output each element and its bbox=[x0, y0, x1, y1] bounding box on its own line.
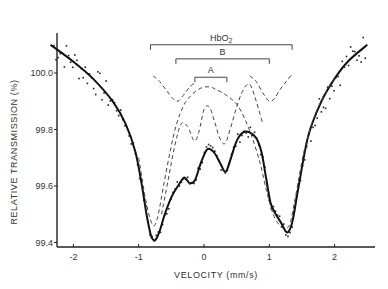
x-tick-label: 0 bbox=[201, 252, 206, 262]
data-point bbox=[74, 54, 76, 56]
data-point bbox=[82, 77, 84, 79]
data-point bbox=[120, 109, 122, 111]
data-point bbox=[87, 83, 89, 85]
x-axis-label: VELOCITY (mm/s) bbox=[174, 270, 258, 280]
x-tick-label: 1 bbox=[267, 252, 272, 262]
series-doublet-b bbox=[250, 73, 293, 101]
data-point bbox=[84, 66, 86, 68]
data-point bbox=[346, 56, 348, 58]
mossbauer-spectrum-chart: 99.499.699.8100.0-2-1012 HbO2BA VELOCITY… bbox=[0, 0, 388, 289]
data-point bbox=[287, 236, 289, 238]
data-point bbox=[362, 37, 364, 39]
bracket-label: B bbox=[220, 47, 226, 57]
data-point bbox=[314, 125, 316, 127]
data-point bbox=[116, 110, 118, 112]
data-point bbox=[352, 50, 354, 52]
y-axis-label: RELATIVE TRANSMISSION (%) bbox=[9, 79, 19, 224]
data-point bbox=[348, 65, 350, 67]
data-point bbox=[176, 181, 178, 183]
data-point bbox=[254, 131, 256, 133]
axes: 99.499.699.8100.0-2-1012 bbox=[30, 33, 375, 262]
data-point bbox=[57, 57, 59, 59]
data-point bbox=[105, 80, 107, 82]
data-point bbox=[68, 55, 70, 57]
data-point bbox=[279, 215, 281, 217]
data-point bbox=[358, 55, 360, 57]
y-tick-label: 99.8 bbox=[35, 125, 53, 135]
bracket-label: A bbox=[208, 65, 214, 75]
data-point bbox=[78, 78, 80, 80]
data-point bbox=[319, 98, 321, 100]
data-point bbox=[285, 234, 287, 236]
x-tick-label: -2 bbox=[69, 252, 77, 262]
data-point bbox=[66, 45, 68, 47]
data-point bbox=[323, 107, 325, 109]
data-point bbox=[331, 85, 333, 87]
data-point bbox=[333, 90, 335, 92]
data-point bbox=[107, 104, 109, 106]
data-point bbox=[76, 60, 78, 62]
data-point bbox=[360, 61, 362, 63]
data-point bbox=[316, 117, 318, 119]
data-point bbox=[325, 108, 327, 110]
data-point bbox=[208, 144, 210, 146]
y-tick-label: 99.6 bbox=[35, 181, 53, 191]
data-point bbox=[329, 98, 331, 100]
data-point bbox=[99, 73, 101, 75]
bracket-a bbox=[195, 77, 227, 82]
data-point bbox=[250, 127, 252, 129]
data-point bbox=[247, 136, 249, 138]
bracket-b bbox=[176, 59, 269, 64]
data-point bbox=[364, 57, 366, 59]
data-point bbox=[310, 140, 312, 142]
x-tick-label: -1 bbox=[135, 252, 143, 262]
data-point bbox=[118, 115, 120, 117]
data-point bbox=[101, 99, 103, 101]
data-point bbox=[210, 145, 212, 147]
bracket-label: HbO2 bbox=[210, 33, 233, 44]
data-point bbox=[283, 223, 285, 225]
data-point bbox=[350, 46, 352, 48]
data-point bbox=[237, 133, 239, 135]
x-tick-label: 2 bbox=[332, 252, 337, 262]
series-2 bbox=[162, 84, 263, 214]
data-point bbox=[206, 146, 208, 148]
chart-svg: 99.499.699.8100.0-2-1012 HbO2BA VELOCITY… bbox=[0, 0, 388, 289]
data-point bbox=[212, 147, 214, 149]
data-point bbox=[93, 88, 95, 90]
data-point bbox=[70, 61, 72, 63]
data-point bbox=[72, 67, 74, 69]
data-point bbox=[97, 71, 99, 73]
data-point bbox=[239, 141, 241, 143]
component-brackets: HbO2BA bbox=[150, 33, 292, 82]
data-point bbox=[342, 61, 344, 63]
data-point bbox=[168, 208, 170, 210]
y-tick-label: 100.0 bbox=[30, 68, 53, 78]
data-point bbox=[321, 111, 323, 113]
data-point bbox=[187, 176, 189, 178]
data-point bbox=[64, 66, 66, 68]
data-point bbox=[220, 169, 222, 171]
data-point bbox=[354, 51, 356, 53]
data-point bbox=[130, 143, 132, 145]
y-tick-label: 99.4 bbox=[35, 238, 53, 248]
data-point bbox=[339, 84, 341, 86]
data-point bbox=[55, 59, 57, 61]
data-point bbox=[356, 59, 358, 61]
data-point bbox=[312, 127, 314, 129]
data-point bbox=[95, 94, 97, 96]
